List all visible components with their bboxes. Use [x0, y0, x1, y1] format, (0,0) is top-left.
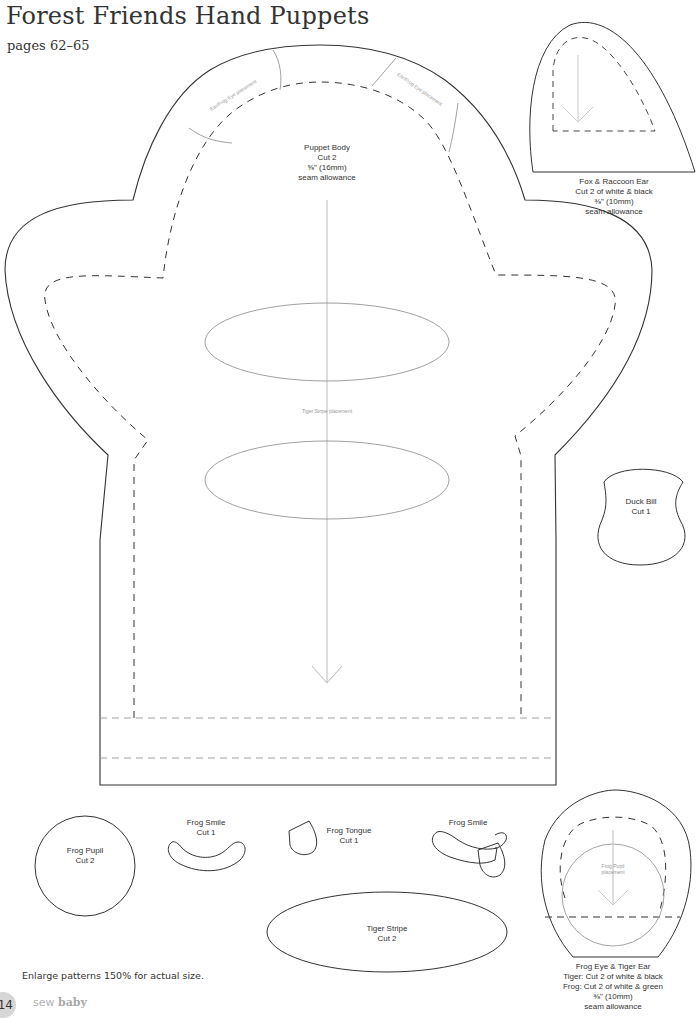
piece-name: Fox & Raccoon Ear [575, 177, 652, 187]
cut-count: Cut 2 [366, 934, 407, 944]
tiger-stripe-label: Tiger Stripe Cut 2 [366, 924, 407, 944]
seam-line [553, 37, 655, 131]
frog-smile-assembled-label: Frog Smile [449, 818, 488, 828]
cut-count: Cut 2 of white & black [575, 187, 652, 197]
piece-name: Duck Bill [625, 497, 656, 507]
brand-light: sew [33, 996, 55, 1009]
frog-pupil-piece [35, 816, 135, 916]
frog-smile-label: Frog Smile Cut 1 [187, 818, 226, 838]
seam-allowance-size: ⅜" (10mm) [563, 992, 663, 1002]
frog-tongue-label: Frog Tongue Cut 1 [327, 826, 372, 846]
piece-name: Frog Pupil [67, 846, 103, 856]
frog-smile-assembled-piece [432, 831, 506, 876]
cut-count: Cut 2 [298, 153, 355, 163]
cut-count: Cut 1 [327, 836, 372, 846]
seam-allowance-note: seam allowance [575, 207, 652, 217]
cut-count: Cut 1 [187, 828, 226, 838]
puppet-body-label: Puppet Body Cut 2 ⅝" (16mm) seam allowan… [298, 143, 355, 183]
tiger-cut-count: Tiger: Cut 2 of white & black [563, 972, 663, 982]
ear-placement-mark-left-top [273, 50, 281, 90]
piece-name: Frog Tongue [327, 826, 372, 836]
seam-allowance-size: ⅜" (10mm) [575, 197, 652, 207]
enlarge-note: Enlarge patterns 150% for actual size. [22, 970, 204, 981]
cut-count: Cut 2 [67, 856, 103, 866]
fox-raccoon-ear-label: Fox & Raccoon Ear Cut 2 of white & black… [575, 177, 652, 217]
smile-end [495, 833, 506, 848]
brand-bold: baby [58, 996, 87, 1009]
duck-bill-label: Duck Bill Cut 1 [625, 497, 656, 517]
pupil-placement-text: placement [601, 869, 624, 875]
piece-name: Frog Eye & Tiger Ear [563, 962, 663, 972]
cut-count: Cut 1 [625, 507, 656, 517]
seam-allowance-note: seam allowance [563, 1002, 663, 1012]
piece-name: Tiger Stripe [366, 924, 407, 934]
ear-placement-mark-right-top [372, 58, 396, 86]
seam-allowance-note: seam allowance [298, 173, 355, 183]
piece-name: Frog Smile [187, 818, 226, 828]
cut-line [530, 22, 695, 172]
frog-pupil-label: Frog Pupil Cut 2 [67, 846, 103, 866]
pupil-placement-label: Frog Pupil placement [601, 863, 624, 875]
smile-shape [432, 831, 497, 863]
piece-name: Puppet Body [298, 143, 355, 153]
frog-tongue-piece [289, 821, 317, 855]
frog-smile-piece [168, 842, 245, 871]
fox-raccoon-ear-piece [530, 22, 695, 172]
brand-wordmark: sew baby [33, 996, 87, 1009]
frog-eye-tiger-ear-label: Frog Eye & Tiger Ear Tiger: Cut 2 of whi… [563, 962, 663, 1012]
stripe-placement-label: Tiger Stripe placement [302, 408, 352, 414]
duck-bill-piece [598, 469, 685, 565]
tongue-overlay [478, 843, 505, 877]
ear-placement-mark-right-bottom [449, 103, 458, 152]
seam-allowance-size: ⅝" (16mm) [298, 163, 355, 173]
frog-cut-count: Frog: Cut 2 of white & green [563, 982, 663, 992]
